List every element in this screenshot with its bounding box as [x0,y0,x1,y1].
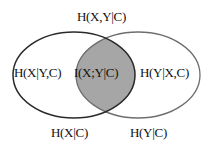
entropy-y-label: H(Y|C) [130,126,167,139]
conditional-entropy-x-label: H(X|Y,C) [14,66,61,79]
conditional-entropy-y-label: H(Y|X,C) [140,66,189,79]
joint-entropy-label: H(X,Y|C) [77,10,126,23]
entropy-x-label: H(X|C) [51,126,88,139]
mutual-information-label: I(X;Y|C) [74,66,118,79]
